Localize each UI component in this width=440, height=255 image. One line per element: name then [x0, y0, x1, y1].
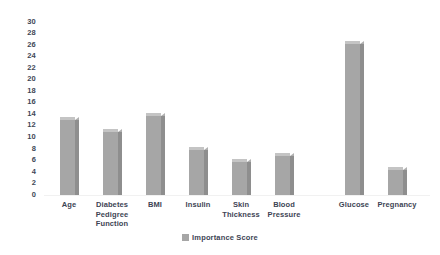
y-tick-label: 16 — [27, 98, 36, 106]
bar-top-side-face — [360, 41, 364, 44]
bar-top-side-face — [403, 167, 407, 170]
bar-side-face — [75, 120, 79, 195]
bar-top-side-face — [290, 153, 294, 156]
bar-side-face — [161, 116, 165, 195]
bar-top-side-face — [75, 117, 79, 120]
bar-front-face — [189, 147, 204, 195]
bar-side-face — [247, 162, 251, 195]
bar-front-face — [103, 129, 118, 195]
bar-chart: 30 28 26 24 22 20 18 16 14 12 10 8 6 4 2… — [0, 0, 440, 255]
bar-top-side-face — [247, 159, 251, 162]
bar-top-side-face — [204, 147, 208, 150]
y-tick-label: 26 — [27, 41, 36, 49]
bar-front-face — [60, 117, 75, 195]
y-tick-label: 18 — [27, 87, 36, 95]
y-tick-label: 20 — [27, 75, 36, 83]
y-tick-label: 4 — [32, 168, 36, 176]
bar-top-face — [103, 129, 118, 132]
y-tick-label: 12 — [27, 121, 36, 129]
axis-baseline — [44, 195, 430, 196]
bar-front-face — [232, 159, 247, 195]
bar-top-face — [275, 153, 290, 156]
bar-top-face — [345, 41, 360, 44]
bar-side-face — [403, 170, 407, 195]
bar-top-face — [189, 147, 204, 150]
chart-legend: Importance Score — [0, 233, 440, 242]
bar-front-face — [275, 153, 290, 195]
x-tick-label-blood-pressure: Blood Pressure — [254, 200, 314, 219]
bar-side-face — [118, 132, 122, 195]
y-axis: 30 28 26 24 22 20 18 16 14 12 10 8 6 4 2… — [0, 0, 44, 210]
y-tick-label: 8 — [32, 145, 36, 153]
bar-top-side-face — [161, 113, 165, 116]
y-tick-label: 6 — [32, 156, 36, 164]
bar-side-face — [360, 44, 364, 195]
legend-swatch-importance-score — [182, 234, 189, 241]
x-tick-label-pregnancy: Pregnancy — [367, 200, 427, 210]
y-tick-label: 22 — [27, 64, 36, 72]
y-tick-label: 0 — [32, 191, 36, 199]
y-tick-label: 30 — [27, 18, 36, 26]
bar-top-face — [388, 167, 403, 170]
bar-top-face — [232, 159, 247, 162]
bar-front-face — [388, 167, 403, 195]
y-tick-label: 28 — [27, 29, 36, 37]
y-tick-label: 14 — [27, 110, 36, 118]
y-tick-label: 10 — [27, 133, 36, 141]
bar-front-face — [345, 41, 360, 195]
legend-label-importance-score: Importance Score — [192, 233, 258, 242]
y-tick-label: 2 — [32, 179, 36, 187]
bar-top-face — [60, 117, 75, 120]
bar-top-side-face — [118, 129, 122, 132]
bar-side-face — [290, 156, 294, 195]
y-tick-label: 24 — [27, 52, 36, 60]
bar-side-face — [204, 150, 208, 195]
bar-front-face — [146, 113, 161, 195]
bar-top-face — [146, 113, 161, 116]
